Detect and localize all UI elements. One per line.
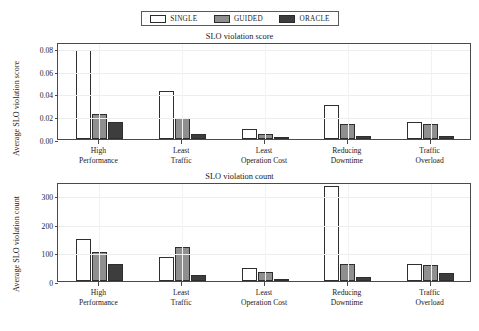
y-tick-mark bbox=[55, 118, 58, 119]
x-tick-mark bbox=[347, 282, 348, 286]
x-tick-label: LeastTraffic bbox=[171, 288, 192, 307]
gridline-vertical bbox=[99, 44, 100, 139]
gridline-vertical bbox=[348, 44, 349, 139]
legend-swatch-guided bbox=[214, 15, 230, 23]
x-tick-label: LeastOperation Cost bbox=[241, 288, 287, 307]
bar-oracle bbox=[191, 134, 206, 139]
x-tick-label-line: Overload bbox=[415, 298, 443, 308]
gridline bbox=[58, 73, 470, 74]
x-tick-label: LeastOperation Cost bbox=[241, 146, 287, 165]
x-tick-label: TrafficOverload bbox=[415, 146, 443, 165]
chart-title-count: SLO violation count bbox=[0, 170, 479, 183]
y-tick-label: 0.04 bbox=[40, 91, 53, 100]
gridline bbox=[58, 118, 470, 119]
gridline-vertical bbox=[265, 44, 266, 139]
legend-entry-oracle: ORACLE bbox=[279, 15, 329, 23]
x-tick-label-line: Least bbox=[241, 146, 287, 156]
gridline-vertical bbox=[182, 184, 183, 281]
legend-swatch-single bbox=[150, 15, 166, 23]
bar-oracle bbox=[439, 136, 454, 139]
y-tick-mark bbox=[55, 254, 58, 255]
x-tick-label: TrafficOverload bbox=[415, 288, 443, 307]
bar-oracle bbox=[356, 277, 371, 281]
y-tick-label: 0.08 bbox=[40, 45, 53, 54]
bar-single bbox=[324, 105, 339, 139]
x-tick-label-line: Traffic bbox=[171, 298, 192, 308]
gridline-vertical bbox=[431, 44, 432, 139]
legend-swatch-oracle bbox=[279, 15, 295, 23]
x-tick-label-line: Traffic bbox=[171, 156, 192, 166]
bar-oracle bbox=[356, 136, 371, 139]
gridline bbox=[58, 95, 470, 96]
y-tick-label: 0 bbox=[49, 279, 53, 288]
x-tick-label: HighPerformance bbox=[79, 288, 118, 307]
chart-panel-slo-violation-count: SLO violation count Average SLO violatio… bbox=[0, 170, 479, 331]
x-tick-label-line: Overload bbox=[415, 156, 443, 166]
bar-single bbox=[159, 257, 174, 281]
x-tick-label-line: Reducing bbox=[331, 288, 363, 298]
plot-area-count: 0100200300 bbox=[57, 183, 471, 282]
bar-single bbox=[242, 268, 257, 281]
x-tick-label-line: High bbox=[79, 288, 118, 298]
x-tick-label-line: Downtime bbox=[331, 298, 363, 308]
x-tick-label-line: Downtime bbox=[331, 156, 363, 166]
x-tick-label: ReducingDowntime bbox=[331, 288, 363, 307]
bar-single bbox=[242, 129, 257, 139]
x-tick-label-line: Reducing bbox=[331, 146, 363, 156]
x-tick-label-line: Traffic bbox=[415, 146, 443, 156]
gridline bbox=[58, 254, 470, 255]
y-tick-label: 200 bbox=[42, 221, 53, 230]
gridline-vertical bbox=[348, 184, 349, 281]
plot-area-score: 0.000.020.040.060.08 bbox=[57, 43, 471, 140]
bar-oracle bbox=[108, 122, 123, 139]
gridline bbox=[58, 226, 470, 227]
x-tick-label-line: Performance bbox=[79, 156, 118, 166]
bar-oracle bbox=[191, 275, 206, 281]
chart-panel-slo-violation-score: SLO violation score Average SLO violatio… bbox=[0, 30, 479, 170]
bar-oracle bbox=[274, 137, 289, 139]
gridline-vertical bbox=[265, 184, 266, 281]
y-tick-label: 0.02 bbox=[40, 114, 53, 123]
y-tick-mark bbox=[55, 95, 58, 96]
y-tick-mark bbox=[55, 141, 58, 142]
bar-single bbox=[324, 186, 339, 281]
y-axis-label-score: Average SLO violation score bbox=[12, 61, 21, 156]
x-tick-label-line: Traffic bbox=[415, 288, 443, 298]
x-tick-label: LeastTraffic bbox=[171, 146, 192, 165]
y-tick-label: 100 bbox=[42, 250, 53, 259]
x-tick-label-line: Operation Cost bbox=[241, 298, 287, 308]
y-tick-mark bbox=[55, 226, 58, 227]
x-tick-label-line: Least bbox=[241, 288, 287, 298]
bar-oracle bbox=[108, 264, 123, 281]
x-tick-mark bbox=[181, 140, 182, 144]
chart-legend: SINGLE GUIDED ORACLE bbox=[141, 11, 339, 26]
legend-label-guided: GUIDED bbox=[234, 15, 263, 23]
y-axis-label-count: Average SLO violation count bbox=[12, 196, 21, 292]
x-tick-mark bbox=[430, 282, 431, 286]
x-tick-label-line: Least bbox=[171, 146, 192, 156]
x-tick-mark bbox=[264, 140, 265, 144]
y-tick-mark bbox=[55, 73, 58, 74]
legend-entry-single: SINGLE bbox=[150, 15, 197, 23]
x-tick-mark bbox=[181, 282, 182, 286]
legend-entry-guided: GUIDED bbox=[214, 15, 263, 23]
gridline bbox=[58, 197, 470, 198]
bar-oracle bbox=[439, 273, 454, 281]
bar-single bbox=[407, 264, 422, 281]
x-tick-label-line: Operation Cost bbox=[241, 156, 287, 166]
x-tick-mark bbox=[98, 282, 99, 286]
x-tick-label: HighPerformance bbox=[79, 146, 118, 165]
x-tick-mark bbox=[430, 140, 431, 144]
chart-title-score: SLO violation score bbox=[0, 30, 479, 43]
y-tick-mark bbox=[55, 283, 58, 284]
bar-single bbox=[76, 239, 91, 281]
x-tick-label: ReducingDowntime bbox=[331, 146, 363, 165]
gridline-vertical bbox=[182, 44, 183, 139]
gridline bbox=[58, 50, 470, 51]
x-tick-mark bbox=[264, 282, 265, 286]
x-tick-mark bbox=[98, 140, 99, 144]
x-tick-label-line: High bbox=[79, 146, 118, 156]
gridline-vertical bbox=[99, 184, 100, 281]
bar-oracle bbox=[274, 279, 289, 281]
legend-label-oracle: ORACLE bbox=[299, 15, 329, 23]
